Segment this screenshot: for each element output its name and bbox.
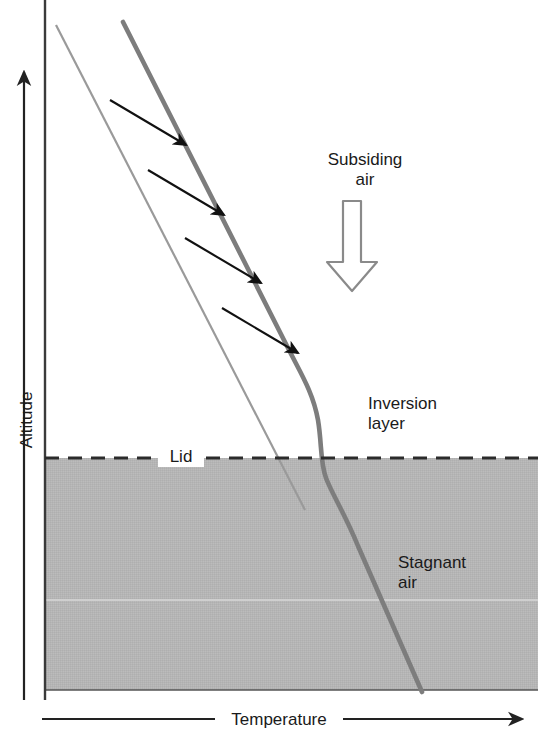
inversion-diagram: Subsiding air Inversion layer Stagnant a… [0,0,550,738]
inversion-layer-label: Inversion layer [368,394,488,434]
altitude-axis-label: Altitude [17,380,37,460]
stagnant-air-label: Stagnant air [398,553,508,593]
lid-label: Lid [158,447,204,467]
subsiding-air-hollow-arrow [327,201,377,291]
dry-adiabat-line [56,25,305,510]
diagram-canvas [0,0,550,738]
temperature-axis-label: Temperature [215,710,343,730]
subsiding-air-label: Subsiding air [305,150,425,190]
